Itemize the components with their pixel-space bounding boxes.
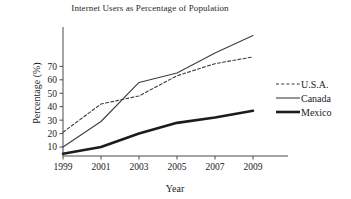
x-axis-tick-label: 1999: [54, 162, 73, 172]
y-axis-tick-label: 30: [48, 116, 58, 126]
y-axis-tick-label: 40: [48, 102, 58, 112]
y-axis-title: Percentage (%): [31, 62, 43, 123]
legend-label-canada[interactable]: Canada: [301, 93, 332, 104]
y-axis-tick-label: 70: [48, 62, 58, 72]
x-axis-title: Year: [166, 183, 185, 194]
x-axis-tick-label: 2007: [206, 162, 225, 172]
line-chart-plot: 10203040506070 199920012003200520072009 …: [0, 0, 351, 199]
data-series-group: [63, 35, 253, 153]
y-axis-tick-label: 20: [48, 129, 58, 139]
y-axis-tick-label: 10: [48, 142, 58, 152]
y-axis-tick-labels: 10203040506070: [48, 62, 58, 153]
series-line-canada: [63, 35, 253, 147]
y-axis-tick-label: 50: [48, 89, 58, 99]
chart-figure: Internet Users as Percentage of Populati…: [0, 0, 351, 199]
x-axis-tick-label: 2009: [244, 162, 263, 172]
x-axis-tick-labels: 199920012003200520072009: [54, 162, 263, 172]
x-axis-tick-label: 2001: [92, 162, 111, 172]
legend-label-mexico[interactable]: Mexico: [301, 107, 332, 118]
x-axis-tick-label: 2005: [168, 162, 187, 172]
chart-legend: U.S.A. Canada Mexico: [276, 79, 332, 118]
series-line-mexico: [63, 111, 253, 154]
x-axis-tick-marks: [63, 156, 253, 160]
x-axis-tick-label: 2003: [130, 162, 149, 172]
series-line-usa: [63, 57, 253, 132]
y-axis-tick-marks: [60, 66, 64, 147]
legend-label-usa[interactable]: U.S.A.: [301, 79, 329, 90]
y-axis-tick-label: 60: [48, 75, 58, 85]
